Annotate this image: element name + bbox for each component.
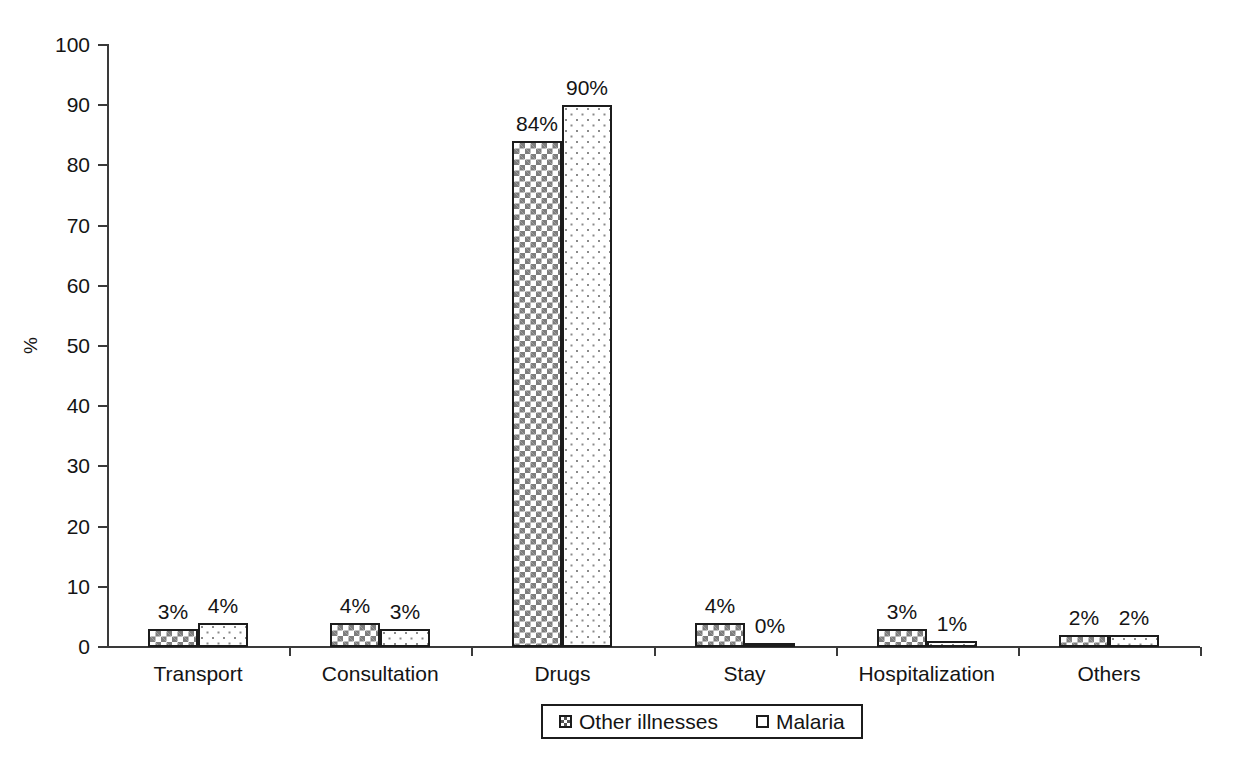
y-axis-tick (98, 646, 108, 648)
bar-value-label: 90% (550, 77, 624, 98)
x-axis-category-label: Others (1018, 662, 1200, 686)
legend-item-malaria: Malaria (756, 711, 845, 732)
y-axis-tick-label: 90 (28, 94, 90, 115)
bar-value-label: 3% (368, 601, 442, 622)
bar-others-other-illnesses (1059, 635, 1109, 647)
y-axis-tick-label: 20 (28, 516, 90, 537)
y-axis-tick-label: 60 (28, 275, 90, 296)
y-axis-tick (98, 586, 108, 588)
bar-stay-malaria (745, 643, 795, 647)
x-axis-tick (836, 647, 838, 656)
y-axis-tick (98, 285, 108, 287)
bar-others-malaria (1109, 635, 1159, 647)
bar-value-label: 4% (683, 595, 757, 616)
chart-legend: Other illnesses Malaria (541, 704, 863, 739)
y-axis-tick (98, 104, 108, 106)
x-axis-tick (289, 647, 291, 656)
y-axis-tick-label: 10 (28, 576, 90, 597)
bar-consultation-other-illnesses (330, 623, 380, 647)
x-axis-category-label: Drugs (471, 662, 653, 686)
bar-value-label: 4% (186, 595, 260, 616)
x-axis-category-label: Hospitalization (836, 662, 1018, 686)
y-axis-tick (98, 345, 108, 347)
x-axis-category-label: Consultation (289, 662, 471, 686)
bar-hospitalization-malaria (927, 641, 977, 647)
y-axis-tick-label: 100 (28, 34, 90, 55)
legend-label-other-illnesses: Other illnesses (579, 711, 718, 732)
bar-value-label: 1% (915, 613, 989, 634)
x-axis-tick (1018, 647, 1020, 656)
x-axis-tick (471, 647, 473, 656)
y-axis-tick-label: 80 (28, 154, 90, 175)
bar-transport-malaria (198, 623, 248, 647)
y-axis-tick-label: 30 (28, 455, 90, 476)
bar-value-label: 0% (733, 615, 807, 636)
legend-swatch-icon-malaria (756, 715, 769, 728)
y-axis-tick-label: 0 (28, 636, 90, 657)
x-axis-category-label: Transport (107, 662, 289, 686)
y-axis-tick (98, 225, 108, 227)
y-axis-tick-label: 40 (28, 395, 90, 416)
x-axis-tick (1200, 647, 1202, 656)
legend-swatch-icon-other-illnesses (559, 715, 572, 728)
bar-transport-other-illnesses (148, 629, 198, 647)
bar-chart: % 0102030405060708090100 3%4%4%3%84%90%4… (0, 0, 1238, 767)
y-axis-tick (98, 405, 108, 407)
y-axis-tick (98, 526, 108, 528)
y-axis-tick-label: 50 (28, 335, 90, 356)
bar-consultation-malaria (380, 629, 430, 647)
y-axis-tick-label: 70 (28, 215, 90, 236)
legend-item-other-illnesses: Other illnesses (559, 711, 718, 732)
y-axis-tick (98, 465, 108, 467)
x-axis-category-label: Stay (654, 662, 836, 686)
bar-drugs-other-illnesses (512, 141, 562, 647)
x-axis-tick (654, 647, 656, 656)
bar-drugs-malaria (562, 105, 612, 647)
y-axis-tick (98, 164, 108, 166)
y-axis-tick (98, 44, 108, 46)
bar-value-label: 2% (1097, 607, 1171, 628)
legend-label-malaria: Malaria (776, 711, 845, 732)
